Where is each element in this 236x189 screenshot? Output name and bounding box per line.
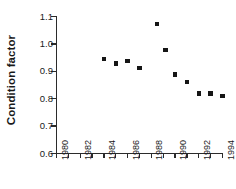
- y-axis-line: [56, 16, 57, 154]
- x-axis-tick: [56, 153, 57, 158]
- condition-factor-scatter-chart: Condition factor 1.11.00.90.80.70.6 1980…: [0, 0, 236, 189]
- x-axis-tick-label: 1980: [52, 160, 62, 189]
- data-point: [114, 61, 118, 65]
- x-axis-tick: [222, 153, 223, 158]
- data-point: [220, 94, 224, 98]
- x-axis-tick-label-text: 1992: [202, 140, 212, 160]
- data-point: [163, 48, 167, 52]
- y-axis-tick-label: 0.9: [27, 66, 53, 75]
- data-point: [173, 72, 177, 76]
- data-point: [208, 91, 212, 95]
- x-axis-tick-label: 1992: [194, 160, 204, 189]
- x-axis-tick-label: 1986: [123, 160, 133, 189]
- x-axis-tick-label-text: 1986: [131, 140, 141, 160]
- x-axis-tick-label-text: 1994: [226, 140, 236, 160]
- x-axis-tick: [174, 153, 175, 158]
- data-point: [137, 66, 141, 70]
- x-axis-tick: [80, 153, 81, 158]
- y-axis-tick-label: 0.8: [27, 94, 53, 103]
- data-point: [185, 80, 189, 84]
- data-point: [125, 59, 129, 63]
- data-point: [102, 57, 106, 61]
- x-axis-tick-label: 1990: [170, 160, 180, 189]
- y-axis-tick-label: 1.0: [27, 39, 53, 48]
- x-axis-tick: [198, 153, 199, 158]
- x-axis-tick-label: 1994: [218, 160, 228, 189]
- x-axis-tick-label-text: 1980: [60, 140, 70, 160]
- x-axis-tick: [127, 153, 128, 158]
- x-axis-tick-label-text: 1988: [154, 140, 164, 160]
- x-axis-tick-label: 1984: [99, 160, 109, 189]
- y-axis-tick-label: 1.1: [27, 12, 53, 21]
- x-axis-tick-label: 1988: [146, 160, 156, 189]
- data-point: [197, 91, 201, 95]
- data-point: [155, 22, 159, 26]
- x-axis-tick-label-text: 1990: [178, 140, 188, 160]
- x-axis-tick: [103, 153, 104, 158]
- y-axis-title-label: Condition factor: [5, 35, 17, 125]
- y-axis-title: Condition factor: [0, 0, 22, 160]
- x-axis-tick: [151, 153, 152, 158]
- x-axis-tick-label-text: 1982: [83, 140, 93, 160]
- x-axis-tick-label: 1982: [75, 160, 85, 189]
- x-axis-tick-label-text: 1984: [107, 140, 117, 160]
- y-axis-tick-label: 0.6: [27, 149, 53, 158]
- y-axis-tick-label: 0.7: [27, 121, 53, 130]
